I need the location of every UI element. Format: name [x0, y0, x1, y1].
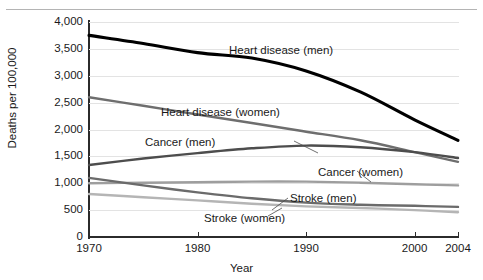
x-axis-title: Year [0, 262, 483, 274]
y-axis-title: Deaths per 100,000 [6, 28, 18, 168]
annotation-leader-line [272, 198, 288, 210]
gridline [89, 156, 459, 157]
x-axis-line [88, 236, 459, 238]
x-tick-mark [198, 232, 199, 237]
series-label-heart-disease-men: Heart disease (men) [229, 44, 333, 56]
x-tick-mark [89, 232, 90, 237]
gridline [89, 183, 459, 184]
chart-figure: 05001,0001,5002,0002,5003,0003,5004,000 … [0, 0, 483, 280]
series-label-heart-disease-women: Heart disease (women) [161, 106, 280, 118]
gridline [89, 130, 459, 131]
top-rule-divider [6, 9, 477, 10]
series-label-cancer-men: Cancer (men) [145, 136, 215, 148]
series-label-stroke-men: Stroke (men) [290, 192, 356, 204]
x-tick-mark [458, 232, 459, 237]
x-tick-mark [306, 232, 307, 237]
x-tick-label: 1970 [64, 242, 114, 254]
gridline [89, 22, 459, 23]
y-tick-label: 1,000 [5, 177, 83, 189]
gridline [89, 103, 459, 104]
y-tick-label: 4,000 [5, 16, 83, 28]
gridline [89, 76, 459, 77]
x-tick-label: 1980 [173, 242, 223, 254]
y-tick-label: 0 [5, 231, 83, 243]
series-label-stroke-women: Stroke (women) [204, 212, 285, 224]
gridline [89, 210, 459, 211]
annotation-leader-line [294, 141, 318, 153]
y-tick-label: 500 [5, 204, 83, 216]
series-label-cancer-women: Cancer (women) [318, 166, 403, 178]
x-tick-mark [415, 232, 416, 237]
x-tick-label: 1990 [281, 242, 331, 254]
x-tick-label: 2004 [433, 242, 483, 254]
